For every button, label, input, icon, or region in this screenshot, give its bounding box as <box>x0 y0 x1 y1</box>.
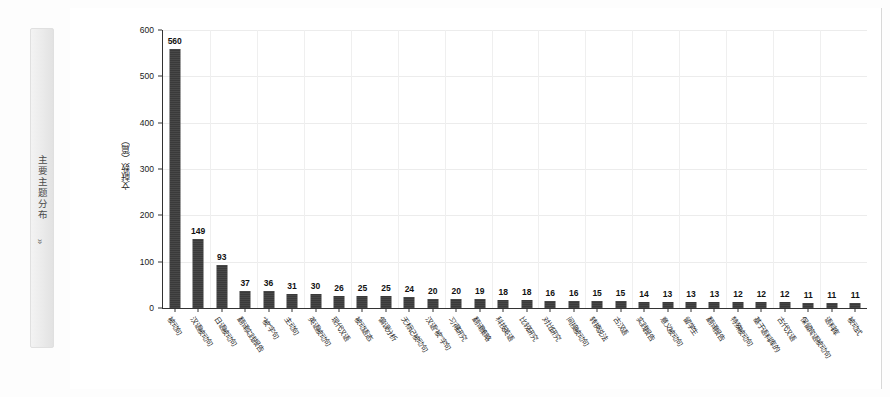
bar-slot: 16 <box>538 30 561 308</box>
bar-value-label: 13 <box>686 289 695 299</box>
bar-value-label: 30 <box>311 281 320 291</box>
x-axis-label-slot: 英语被动句 <box>303 312 326 382</box>
bar-slot: 560 <box>163 30 186 308</box>
x-axis-label-slot: 被动句 <box>162 312 185 382</box>
bar-slot: 37 <box>233 30 256 308</box>
bar-slot: 16 <box>562 30 585 308</box>
x-axis-label-slot: 古代汉语 <box>772 312 795 382</box>
x-axis-tick-label: 古汉语 <box>611 314 632 337</box>
y-axis-tick-label: 100 <box>140 257 154 267</box>
bar-value-label: 560 <box>168 36 182 46</box>
bar-slot: 19 <box>468 30 491 308</box>
bar-value-label: 37 <box>240 278 249 288</box>
chart-page: 主要主题分布 » 文献数（篇） 0100200300400500600 5601… <box>0 0 890 397</box>
x-axis-label-slot: 汉语“被”字句 <box>420 312 443 382</box>
bar[interactable] <box>310 294 321 308</box>
bar-slot: 36 <box>257 30 280 308</box>
bar-value-label: 31 <box>287 281 296 291</box>
y-axis-tick-label: 300 <box>140 164 154 174</box>
x-axis-tick-label: 留学生 <box>681 314 702 337</box>
bar-value-label: 12 <box>780 289 789 299</box>
bar[interactable] <box>333 296 344 308</box>
sidebar-topic-distribution-tab[interactable]: 主要主题分布 » <box>30 28 54 348</box>
bar-slot: 25 <box>351 30 374 308</box>
chevron-right-icon[interactable]: » <box>35 239 45 244</box>
bar-slot: 18 <box>515 30 538 308</box>
x-axis-label-slot: 科技英语 <box>491 312 514 382</box>
x-axis-labels: 被动句汉语被动句日语被动句翻译实践报告“被”字句主动句英语被动句现代汉语被动语态… <box>162 312 866 382</box>
bar-series: 5601499337363130262525242020191818161615… <box>163 30 867 308</box>
x-axis-label-slot: 被动语态 <box>350 312 373 382</box>
y-axis-tick-label: 500 <box>140 71 154 81</box>
bar-value-label: 24 <box>405 284 414 294</box>
y-axis-label: 文献数（篇） <box>118 136 132 190</box>
sidebar-label: 主要主题分布 <box>37 155 47 221</box>
bar[interactable] <box>169 49 180 308</box>
bar-value-label: 13 <box>710 289 719 299</box>
bar[interactable] <box>216 265 227 308</box>
bar[interactable] <box>451 299 462 308</box>
x-axis-label-slot: 习得研究 <box>444 312 467 382</box>
x-axis-label-slot: 古汉语 <box>608 312 631 382</box>
bar-value-label: 11 <box>851 290 860 300</box>
bar[interactable] <box>474 299 485 308</box>
x-axis-label-slot: 实践报告 <box>631 312 654 382</box>
bar-value-label: 25 <box>358 283 367 293</box>
bar-value-label: 15 <box>616 288 625 298</box>
bar[interactable] <box>380 296 391 308</box>
bar-value-label: 16 <box>545 288 554 298</box>
bar[interactable] <box>615 301 626 308</box>
x-axis-label-slot: 对比研究 <box>537 312 560 382</box>
bar-value-label: 26 <box>334 283 343 293</box>
x-axis-label-slot: 主动句 <box>279 312 302 382</box>
x-axis-label-slot: 翻译实践报告 <box>232 312 255 382</box>
bar-slot: 12 <box>750 30 773 308</box>
y-axis-tick-label: 0 <box>149 303 154 313</box>
bar-slot: 13 <box>679 30 702 308</box>
x-axis-label-slot: 翻译报告 <box>702 312 725 382</box>
bar-slot: 12 <box>726 30 749 308</box>
y-axis-tick-label: 200 <box>140 210 154 220</box>
bar-value-label: 18 <box>499 287 508 297</box>
bar-slot: 11 <box>797 30 820 308</box>
bar-slot: 20 <box>445 30 468 308</box>
bar-slot: 14 <box>632 30 655 308</box>
bar[interactable] <box>193 239 204 308</box>
x-axis-label-slot: 意义被动句 <box>655 312 678 382</box>
bar-value-label: 18 <box>522 287 531 297</box>
bar[interactable] <box>592 301 603 308</box>
bar-slot: 15 <box>585 30 608 308</box>
bar-slot: 24 <box>398 30 421 308</box>
bar[interactable] <box>545 301 556 308</box>
bar-slot: 13 <box>703 30 726 308</box>
bar[interactable] <box>521 300 532 308</box>
bar-slot: 11 <box>820 30 843 308</box>
bar-value-label: 20 <box>452 286 461 296</box>
y-axis-ticks: 0100200300400500600 <box>132 30 158 308</box>
bar[interactable] <box>498 300 509 308</box>
bar-value-label: 149 <box>191 226 205 236</box>
x-axis-label-slot: 语料库 <box>819 312 842 382</box>
x-axis-label-slot: 基于语料库的 <box>749 312 772 382</box>
bar-value-label: 36 <box>264 278 273 288</box>
x-axis-label-slot: 日语被动句 <box>209 312 232 382</box>
bar-value-label: 14 <box>639 289 648 299</box>
x-axis-tick-label: 被动式 <box>845 314 866 337</box>
bar[interactable] <box>404 297 415 308</box>
bar-value-label: 16 <box>569 288 578 298</box>
bar[interactable] <box>568 301 579 308</box>
bar[interactable] <box>263 291 274 308</box>
x-axis-tick-label: 主动句 <box>282 314 303 337</box>
plot-area: 5601499337363130262525242020191818161615… <box>162 30 867 309</box>
x-axis-label-slot: 被动式 <box>843 312 866 382</box>
chart-container: 文献数（篇） 0100200300400500600 5601499337363… <box>70 8 882 389</box>
x-axis-tick-label: 被动句 <box>165 314 186 337</box>
x-axis-label-slot: 留学生 <box>678 312 701 382</box>
bar-value-label: 12 <box>757 289 766 299</box>
bar-value-label: 15 <box>592 288 601 298</box>
x-axis-label-slot: 间接被动句 <box>561 312 584 382</box>
bar[interactable] <box>287 294 298 308</box>
bar[interactable] <box>240 291 251 308</box>
bar[interactable] <box>357 296 368 308</box>
bar[interactable] <box>427 299 438 308</box>
